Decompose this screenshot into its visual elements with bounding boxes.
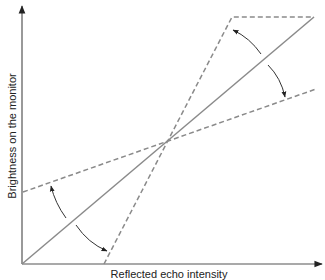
y-axis-label: Brightness on the monitor [6, 73, 18, 198]
rotation-arrow-upper-right [268, 65, 285, 97]
rotation-arrow-upper-left [233, 30, 261, 54]
rotation-arrow-lower-left [51, 186, 66, 218]
low-contrast-line [23, 89, 316, 192]
x-axis-label: Reflected echo intensity [111, 269, 228, 280]
rotation-arrow-lower-right [76, 225, 107, 251]
high-contrast-line [104, 17, 314, 264]
